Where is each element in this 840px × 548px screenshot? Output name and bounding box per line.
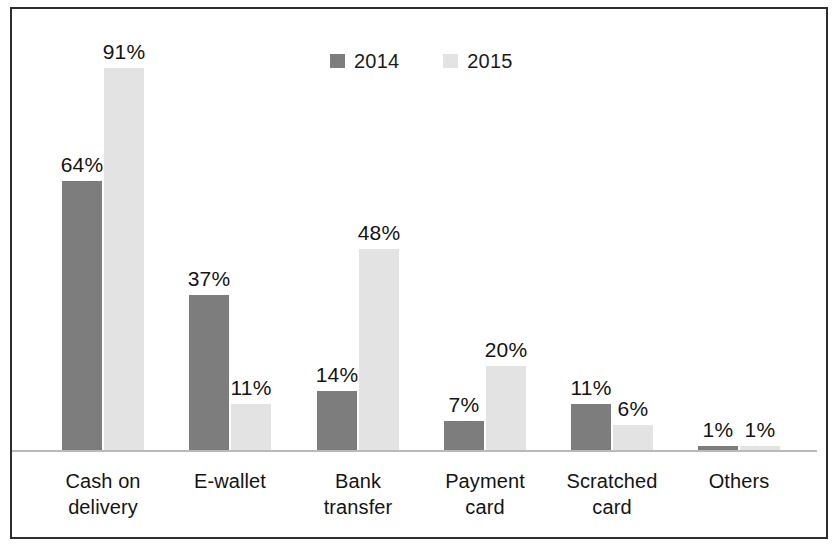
bar-value-label: 7% (449, 394, 480, 415)
bar-rect (740, 446, 780, 450)
category-label-others: Others (649, 468, 829, 494)
bar-rect (317, 391, 357, 450)
category-label-line: card (522, 494, 702, 520)
bar-value-label: 11% (230, 377, 271, 398)
bar-rect (486, 366, 526, 450)
bar-value-label: 1% (703, 419, 734, 440)
bar-rect (189, 295, 229, 450)
bar-chart-figure: 2014 2015 64%91%37%11%14%48%7%20%11%6%1%… (0, 0, 840, 548)
bar-value-label: 48% (358, 222, 401, 243)
bar-rect (698, 446, 738, 450)
bar-value-label: 64% (61, 154, 104, 175)
bar-value-label: 6% (618, 398, 649, 419)
bar-group: 7%20% (444, 0, 528, 548)
bar-value-label: 14% (316, 364, 359, 385)
bar-rect (231, 404, 271, 450)
bars-layer: 64%91%37%11%14%48%7%20%11%6%1%1% (0, 0, 840, 548)
bar-group: 37%11% (189, 0, 273, 548)
bar-rect (359, 249, 399, 450)
bar-value-label: 91% (103, 41, 146, 62)
category-label-line: Others (649, 468, 829, 494)
bar-value-label: 20% (485, 339, 528, 360)
bar-value-label: 1% (745, 419, 776, 440)
bar-rect (444, 421, 484, 450)
bar-group: 1%1% (698, 0, 782, 548)
bar-rect (62, 181, 102, 450)
category-label-line: delivery (13, 494, 193, 520)
bar-group: 64%91% (62, 0, 146, 548)
bar-rect (613, 425, 653, 450)
bar-value-label: 11% (570, 377, 611, 398)
bar-rect (104, 68, 144, 450)
bar-group: 11%6% (571, 0, 655, 548)
bar-group: 14%48% (317, 0, 401, 548)
bar-value-label: 37% (188, 268, 231, 289)
bar-rect (571, 404, 611, 450)
